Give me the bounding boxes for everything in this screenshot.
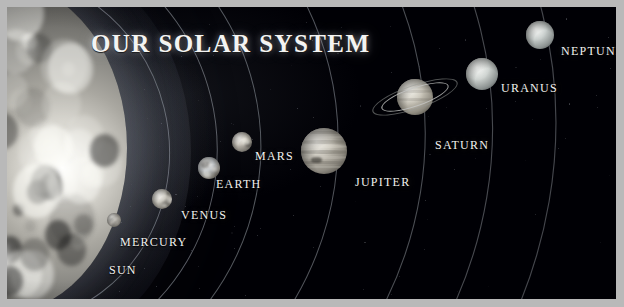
planet-venus [152, 189, 172, 209]
label-neptune: NEPTUNE [561, 44, 616, 59]
planet-mercury [107, 213, 121, 227]
label-mars: MARS [255, 149, 294, 164]
planet-shading [152, 189, 172, 209]
planet-saturn [397, 79, 433, 115]
label-uranus: URANUS [501, 81, 558, 96]
label-mercury: MERCURY [120, 235, 187, 250]
planet-mars [232, 132, 252, 152]
planet-earth [198, 157, 220, 179]
page-title: OUR SOLAR SYSTEM [91, 30, 370, 58]
space-scene: OUR SOLAR SYSTEM SUN MERCURYVENUSEARTHMA… [7, 7, 616, 299]
label-jupiter: JUPITER [355, 175, 410, 190]
label-venus: VENUS [181, 208, 227, 223]
label-sun: SUN [109, 263, 137, 278]
planet-uranus [466, 58, 498, 90]
planet-neptune [526, 21, 554, 49]
planet-shading [526, 21, 554, 49]
planet-shading [301, 128, 347, 174]
label-earth: EARTH [216, 177, 262, 192]
planet-shading [107, 213, 121, 227]
planet-jupiter [301, 128, 347, 174]
planet-shading [198, 157, 220, 179]
planet-shading [232, 132, 252, 152]
planet-shading [466, 58, 498, 90]
solar-system-poster: OUR SOLAR SYSTEM SUN MERCURYVENUSEARTHMA… [0, 0, 624, 307]
label-saturn: SATURN [435, 138, 489, 153]
